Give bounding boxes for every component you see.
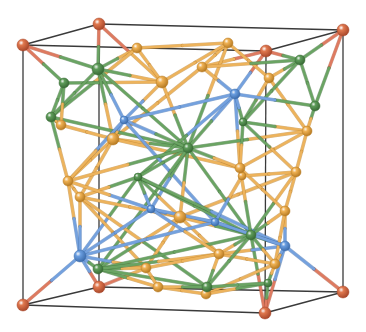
bond (235, 94, 315, 106)
atom-green (239, 118, 247, 126)
atom-orange (223, 38, 233, 48)
atom-green (93, 264, 103, 274)
bond (240, 122, 243, 168)
cell-edge (266, 30, 343, 51)
atom-orange (75, 192, 85, 202)
atom-red (260, 45, 272, 57)
crystal-structure-figure (0, 0, 366, 332)
bond (51, 117, 188, 148)
atom-orange (264, 73, 274, 83)
atom-orange (107, 133, 119, 145)
atom-layer (17, 18, 349, 319)
cell-edge (99, 24, 343, 30)
atom-orange (156, 76, 168, 88)
atom-green (46, 112, 56, 122)
atom-orange (270, 259, 280, 269)
bond (98, 24, 99, 69)
atom-green (264, 279, 272, 287)
atom-blue (230, 89, 240, 99)
atom-blue (280, 241, 290, 251)
atom-green (310, 101, 320, 111)
atom-orange (174, 211, 186, 223)
atom-orange (280, 206, 290, 216)
atom-red (337, 286, 349, 298)
atom-orange (197, 62, 207, 72)
atom-blue (74, 250, 86, 262)
atom-blue (211, 218, 219, 226)
atom-green (92, 63, 104, 75)
atom-red (259, 307, 271, 319)
bond (285, 246, 343, 292)
atom-orange (302, 126, 312, 136)
atom-green (295, 55, 305, 65)
atom-orange (56, 120, 66, 130)
atom-blue (147, 205, 155, 213)
atom-orange (141, 263, 151, 273)
atom-red (337, 24, 349, 36)
atom-orange (291, 167, 301, 177)
atom-green (246, 230, 256, 240)
atom-green (134, 173, 142, 181)
bond (137, 43, 228, 48)
atom-orange (214, 249, 224, 259)
atom-red (17, 39, 29, 51)
atom-orange (235, 163, 245, 173)
atom-green (59, 78, 69, 88)
bond (80, 209, 151, 256)
bond (61, 125, 113, 139)
atom-orange (238, 172, 246, 180)
atom-green (183, 143, 193, 153)
cell-edge (265, 292, 343, 313)
atom-red (17, 299, 29, 311)
crystal-structure-canvas (0, 0, 366, 332)
atom-blue (120, 116, 128, 124)
cell-edge (23, 305, 265, 313)
atom-red (93, 18, 105, 30)
cell-edge (23, 24, 99, 45)
atom-green (202, 282, 212, 292)
atom-red (93, 281, 105, 293)
atom-orange (153, 282, 163, 292)
atom-orange (63, 176, 73, 186)
bond (300, 60, 315, 106)
atom-orange (132, 43, 142, 53)
